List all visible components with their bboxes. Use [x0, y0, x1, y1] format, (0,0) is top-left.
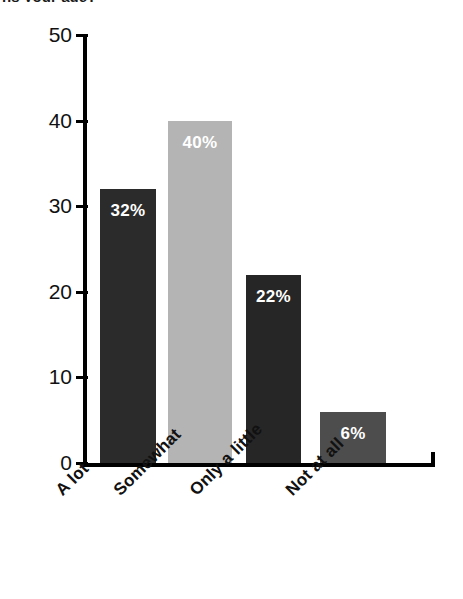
- bar-value-label: 32%: [100, 201, 156, 221]
- bar[interactable]: 32%: [100, 189, 156, 463]
- bar[interactable]: 40%: [168, 121, 232, 463]
- bar-value-label: 22%: [246, 287, 301, 307]
- bar-series: 32%40%22%6%: [0, 0, 463, 463]
- chart-plot-area: 01020304050 32%40%22%6% A lotSomewhatOnl…: [0, 0, 463, 599]
- bar-value-label: 40%: [168, 133, 232, 153]
